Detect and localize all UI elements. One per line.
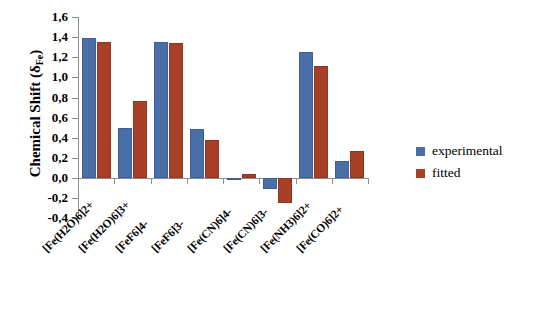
bar-fitted[interactable] bbox=[242, 174, 256, 178]
y-axis-tick-label: 1,4 bbox=[24, 30, 68, 43]
bar-fitted[interactable] bbox=[350, 151, 364, 178]
y-axis-tick-labels: 1,61,41,21,00,80,60,40,20,0-0,2-0,4 bbox=[20, 0, 68, 329]
y-axis-tick-label: 0,2 bbox=[24, 151, 68, 164]
legend-label-experimental: experimental bbox=[432, 143, 502, 159]
y-axis-tick-label: 1,0 bbox=[24, 70, 68, 83]
plot-area bbox=[78, 17, 368, 218]
y-axis-tick-label: 1,6 bbox=[24, 10, 68, 23]
bar-chart: Chemical Shift (δFe) 1,61,41,21,00,80,60… bbox=[0, 0, 544, 329]
bar-experimental[interactable] bbox=[118, 128, 132, 178]
bar-experimental[interactable] bbox=[299, 52, 313, 178]
legend: experimental fitted bbox=[416, 140, 540, 184]
bar-experimental[interactable] bbox=[154, 42, 168, 178]
bar-experimental[interactable] bbox=[82, 38, 96, 178]
legend-item-experimental[interactable]: experimental bbox=[416, 140, 540, 162]
bar-fitted[interactable] bbox=[169, 43, 183, 178]
y-axis-tick-label: 0,6 bbox=[24, 111, 68, 124]
bar-experimental[interactable] bbox=[335, 161, 349, 178]
y-axis-tick-label: 0,8 bbox=[24, 91, 68, 104]
legend-item-fitted[interactable]: fitted bbox=[416, 162, 540, 184]
bar-fitted[interactable] bbox=[205, 140, 219, 178]
legend-swatch-icon-experimental bbox=[416, 147, 425, 156]
y-axis-tick-label: 1,2 bbox=[24, 50, 68, 63]
bar-fitted[interactable] bbox=[97, 42, 111, 178]
bar-experimental[interactable] bbox=[263, 178, 277, 189]
bar-fitted[interactable] bbox=[133, 101, 147, 178]
x-axis-tick bbox=[368, 178, 369, 184]
bar-fitted[interactable] bbox=[278, 178, 292, 203]
y-axis-tick-label: 0,0 bbox=[24, 171, 68, 184]
legend-swatch-icon-fitted bbox=[416, 169, 425, 178]
x-axis-category-label: [FeF6]4- bbox=[113, 217, 150, 254]
legend-label-fitted: fitted bbox=[432, 165, 461, 181]
y-axis-tick-label: 0,4 bbox=[24, 131, 68, 144]
y-axis-tick-label: -0,4 bbox=[24, 211, 68, 224]
y-axis-tick-label: -0,2 bbox=[24, 191, 68, 204]
x-axis-category-label: [FeF6]3- bbox=[149, 217, 186, 254]
bar-experimental[interactable] bbox=[190, 129, 204, 178]
bar-fitted[interactable] bbox=[314, 66, 328, 178]
bar-experimental[interactable] bbox=[227, 178, 241, 180]
